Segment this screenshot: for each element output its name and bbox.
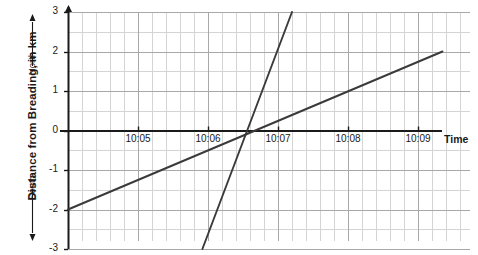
- y-tick-label: -2: [42, 203, 58, 214]
- y-tick-label: -3: [42, 242, 58, 253]
- chart-canvas: [0, 0, 478, 255]
- x-tick-label: 10:09: [398, 133, 438, 144]
- y-tick-label: 1: [42, 84, 58, 95]
- minor-gridlines: [68, 12, 470, 241]
- south-arrow-icon: [27, 189, 37, 241]
- x-tick-label: 10:08: [328, 133, 368, 144]
- x-axis-title: Time: [444, 133, 468, 145]
- y-tick-label: 2: [42, 45, 58, 56]
- y-axis-arrow-up: [65, 5, 72, 12]
- north-arrow-icon: [27, 14, 37, 66]
- y-tick-label: -1: [42, 163, 58, 174]
- y-tick-label: 3: [42, 5, 58, 16]
- y-tick-label: 0: [42, 124, 58, 135]
- x-tick-label: 10:05: [118, 133, 158, 144]
- distance-time-chart: Distance from Breading, in km North Sout…: [0, 0, 478, 255]
- x-tick-label: 10:06: [188, 133, 228, 144]
- x-tick-label: 10:07: [258, 133, 298, 144]
